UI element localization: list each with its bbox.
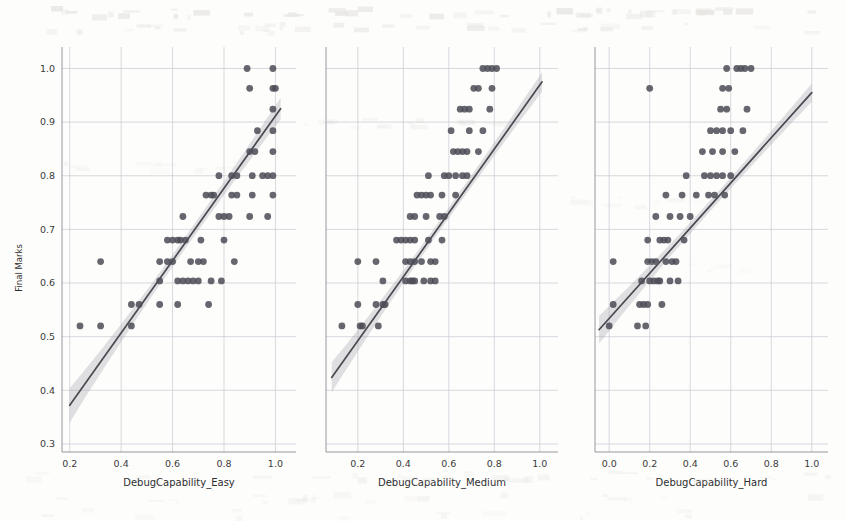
confidence-band bbox=[599, 84, 812, 344]
data-point bbox=[667, 278, 674, 285]
data-point bbox=[439, 237, 446, 244]
data-point bbox=[638, 278, 645, 285]
data-point bbox=[97, 323, 104, 330]
confidence-band bbox=[332, 72, 542, 392]
data-point bbox=[644, 301, 651, 308]
x-tick-label: 0.4 bbox=[114, 458, 129, 469]
data-point bbox=[339, 323, 346, 330]
data-point bbox=[272, 85, 279, 92]
x-tick-label: 0.6 bbox=[441, 458, 456, 469]
data-point bbox=[210, 192, 217, 199]
data-point bbox=[719, 127, 726, 134]
y-tick-label: 0.4 bbox=[40, 385, 55, 396]
data-point bbox=[673, 258, 680, 265]
data-point bbox=[254, 127, 261, 134]
data-point bbox=[723, 106, 730, 113]
data-point bbox=[701, 172, 708, 179]
y-tick-label: 0.5 bbox=[40, 331, 55, 342]
x-tick-label: 1.0 bbox=[804, 458, 819, 469]
x-axis-title: DebugCapability_Easy bbox=[123, 477, 235, 489]
data-point bbox=[375, 323, 382, 330]
data-point bbox=[418, 258, 425, 265]
data-point bbox=[679, 192, 686, 199]
regression-figure: Final Marks0.20.40.60.81.00.30.40.50.60.… bbox=[0, 0, 846, 521]
data-point bbox=[644, 237, 651, 244]
data-point bbox=[382, 301, 389, 308]
data-point bbox=[723, 65, 730, 72]
data-point bbox=[156, 258, 163, 265]
data-point bbox=[252, 148, 259, 155]
data-point bbox=[606, 323, 613, 330]
data-point bbox=[221, 237, 228, 244]
data-point bbox=[169, 258, 176, 265]
data-point bbox=[205, 301, 212, 308]
y-axis-title: Final Marks bbox=[14, 244, 24, 292]
data-point bbox=[707, 172, 714, 179]
data-point bbox=[249, 192, 256, 199]
data-point bbox=[270, 65, 277, 72]
panel-hard: 0.00.20.40.60.81.0DebugCapability_Hard bbox=[595, 47, 828, 489]
data-point bbox=[665, 237, 672, 244]
data-point bbox=[480, 127, 487, 134]
data-point bbox=[740, 127, 747, 134]
y-tick-label: 0.3 bbox=[40, 438, 55, 449]
data-point bbox=[411, 213, 418, 220]
data-point bbox=[411, 278, 418, 285]
data-point bbox=[425, 172, 432, 179]
data-point bbox=[411, 237, 418, 244]
data-point bbox=[675, 278, 682, 285]
data-point bbox=[642, 323, 649, 330]
data-point bbox=[452, 192, 459, 199]
data-point bbox=[663, 192, 670, 199]
y-tick-label: 0.9 bbox=[40, 116, 55, 127]
data-point bbox=[699, 148, 706, 155]
data-point bbox=[246, 85, 253, 92]
x-tick-label: 0.4 bbox=[683, 458, 698, 469]
data-point bbox=[452, 172, 459, 179]
data-point bbox=[721, 192, 728, 199]
data-point bbox=[411, 258, 418, 265]
data-point bbox=[748, 65, 755, 72]
x-tick-label: 0.6 bbox=[165, 458, 180, 469]
data-point bbox=[174, 301, 181, 308]
data-point bbox=[707, 127, 714, 134]
x-axis-title: DebugCapability_Medium bbox=[378, 477, 506, 489]
data-point bbox=[218, 278, 225, 285]
data-point bbox=[156, 301, 163, 308]
data-point bbox=[97, 258, 104, 265]
data-point bbox=[264, 213, 271, 220]
x-tick-label: 1.0 bbox=[268, 458, 283, 469]
y-tick-label: 1.0 bbox=[40, 63, 55, 74]
data-point bbox=[652, 213, 659, 220]
data-point bbox=[270, 106, 277, 113]
data-point bbox=[425, 237, 432, 244]
data-point bbox=[464, 172, 471, 179]
data-point bbox=[187, 258, 194, 265]
data-point bbox=[493, 65, 500, 72]
data-point bbox=[198, 237, 205, 244]
data-point bbox=[216, 172, 223, 179]
x-tick-label: 0.8 bbox=[216, 458, 231, 469]
data-point bbox=[270, 127, 277, 134]
data-point bbox=[445, 172, 452, 179]
x-tick-label: 0.8 bbox=[487, 458, 502, 469]
data-point bbox=[270, 192, 277, 199]
y-tick-label: 0.7 bbox=[40, 224, 55, 235]
data-point bbox=[432, 278, 439, 285]
data-point bbox=[693, 192, 700, 199]
data-point bbox=[659, 301, 666, 308]
x-tick-label: 0.2 bbox=[642, 458, 657, 469]
data-point bbox=[717, 106, 724, 113]
data-point bbox=[380, 278, 387, 285]
data-point bbox=[373, 301, 380, 308]
data-point bbox=[646, 85, 653, 92]
x-tick-label: 0.8 bbox=[764, 458, 779, 469]
data-point bbox=[464, 148, 471, 155]
data-point bbox=[713, 127, 720, 134]
data-point bbox=[681, 237, 688, 244]
data-point bbox=[226, 213, 233, 220]
data-point bbox=[610, 258, 617, 265]
data-point bbox=[486, 106, 493, 113]
data-point bbox=[270, 172, 277, 179]
y-tick-label: 0.6 bbox=[40, 277, 55, 288]
